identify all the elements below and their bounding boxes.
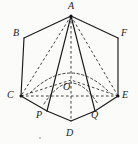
vertex-dot-E [117,95,120,98]
edge-Q-E [95,96,118,111]
point-label-E: E [122,90,128,100]
vertex-dot-C [20,95,23,98]
point-label-C: C [7,90,14,100]
page-speck [39,137,41,139]
edge-A-Q [71,16,95,111]
point-label-Q: Q [91,110,98,120]
geometry-canvas [0,0,138,144]
edge-A-F [71,16,118,38]
point-label-A: A [68,1,74,11]
point-label-O: O [63,82,70,92]
point-label-F: F [121,28,127,38]
edge-A-P [47,16,71,111]
vertex-dot-A [70,15,73,18]
edge-P-D [47,111,71,121]
point-label-D: D [66,128,73,138]
edge-E-O-dashed [71,80,118,96]
edge-C-P [21,96,47,111]
solid-edge-group [21,16,118,121]
edge-B-C [21,38,24,96]
edge-A-E-dashed [71,16,118,96]
point-label-P: P [36,110,42,120]
edge-A-B [24,16,71,38]
geometry-figure: A B F C E O P Q D [0,0,138,144]
point-label-B: B [13,28,19,38]
